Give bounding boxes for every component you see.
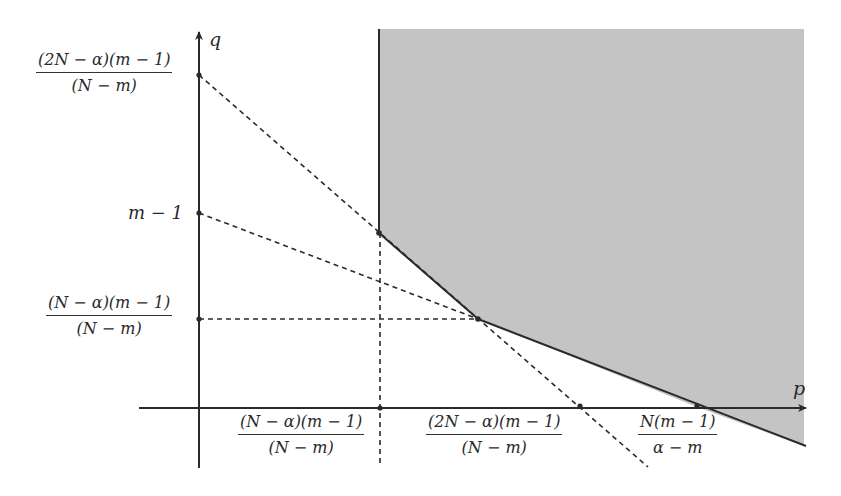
y-tick-label-2: m − 1 <box>128 204 183 222</box>
x-tick-1-denominator: (N − m) <box>269 435 334 457</box>
point-x2 <box>577 403 582 408</box>
point-y1 <box>196 72 201 77</box>
x-tick-2-denominator: (N − m) <box>462 435 527 457</box>
p-axis-label: p <box>793 379 805 398</box>
y-tick-3-numerator: (N − α)(m − 1) <box>46 293 172 316</box>
vertex-a <box>376 230 382 236</box>
y-tick-label-1: (2N − α)(m − 1) (N − m) <box>36 50 172 95</box>
x-tick-3-numerator: N(m − 1) <box>638 412 717 435</box>
point-x1 <box>377 405 382 410</box>
vertex-b <box>475 316 481 322</box>
x-tick-1-numerator: (N − α)(m − 1) <box>238 412 364 435</box>
q-axis-label: q <box>209 30 221 49</box>
point-y2 <box>196 210 201 215</box>
shaded-feasible-region <box>379 29 804 446</box>
y-tick-1-numerator: (2N − α)(m − 1) <box>36 50 172 73</box>
x-tick-label-2: (2N − α)(m − 1) (N − m) <box>426 412 562 457</box>
y-tick-label-3: (N − α)(m − 1) (N − m) <box>46 293 172 338</box>
x-tick-2-numerator: (2N − α)(m − 1) <box>426 412 562 435</box>
y-tick-3-denominator: (N − m) <box>77 316 142 338</box>
x-tick-label-3: N(m − 1) α − m <box>638 412 717 457</box>
point-y3 <box>196 316 201 321</box>
point-x3 <box>694 403 699 408</box>
x-tick-label-1: (N − α)(m − 1) (N − m) <box>238 412 364 457</box>
y-tick-1-denominator: (N − m) <box>72 73 137 95</box>
x-tick-3-denominator: α − m <box>653 435 703 457</box>
